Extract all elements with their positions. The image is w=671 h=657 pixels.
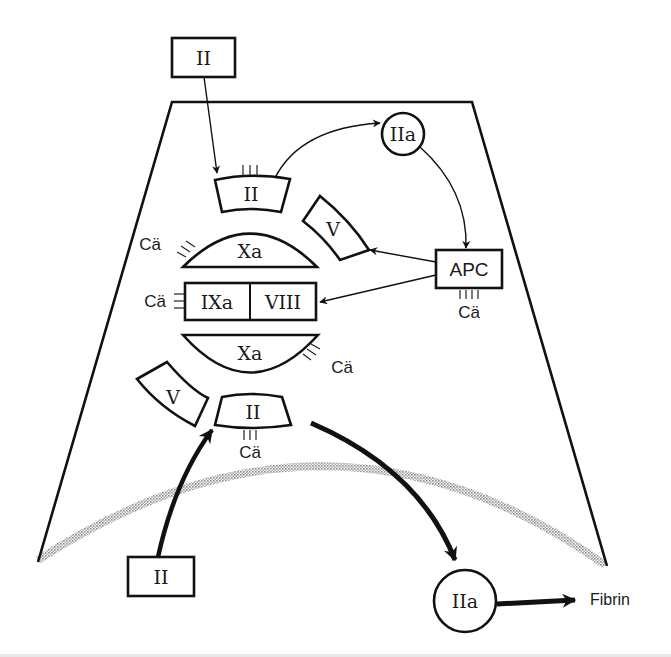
svg-text:II: II — [243, 183, 258, 205]
svg-text:II: II — [196, 47, 211, 69]
factor-xa-upper: Xa Cä — [139, 234, 317, 268]
prothrombin-box-bottom: II — [128, 557, 194, 596]
arrow-thrombin-to-fibrin — [497, 600, 575, 604]
tenase-complex: IXa VIII Cä — [144, 283, 316, 320]
apc-box: APC Cä — [436, 250, 502, 322]
calcium-label-ii-bottom: Cä — [239, 443, 261, 462]
calcium-label-xa-upper: Cä — [139, 235, 161, 254]
arrow-apc-to-v — [370, 250, 436, 262]
svg-text:IIa: IIa — [390, 123, 416, 145]
arrow-bound-ii-to-iia — [275, 123, 380, 178]
membrane-curve — [38, 466, 605, 565]
factor-v-upper: V — [303, 196, 369, 260]
bound-prothrombin-bottom: II Cä — [215, 394, 291, 462]
arrow-iia-to-apc — [420, 147, 466, 248]
svg-text:II: II — [245, 401, 260, 423]
calcium-label-xa-lower: Cä — [331, 358, 353, 377]
prothrombin-box-top: II — [172, 38, 235, 77]
arrow-apc-to-viii — [320, 275, 436, 302]
svg-text:Xa: Xa — [238, 342, 263, 364]
cell-outline — [38, 102, 607, 566]
thrombin-circle-top: IIa — [382, 113, 424, 155]
svg-text:Xa: Xa — [238, 240, 263, 262]
fibrin-label: Fibrin — [590, 591, 630, 608]
thrombin-circle-bottom: IIa — [434, 570, 496, 632]
arrow-bound-to-thrombin-bottom — [311, 423, 455, 560]
calcium-label-apc: Cä — [458, 303, 480, 322]
factor-xa-lower: Xa Cä — [183, 335, 353, 377]
svg-text:APC: APC — [449, 259, 488, 280]
arrow-ii-to-bound-ii — [204, 77, 217, 173]
calcium-label-ixa: Cä — [144, 292, 166, 311]
svg-text:V: V — [165, 386, 180, 408]
svg-text:IIa: IIa — [452, 590, 478, 612]
coagulation-diagram: II II IIa APC Cä V Xa — [0, 0, 671, 657]
svg-text:V: V — [325, 218, 340, 240]
factor-v-lower: V — [137, 362, 208, 426]
factor-viii-label: VIII — [264, 291, 301, 313]
svg-text:II: II — [153, 566, 168, 588]
factor-ixa-label: IXa — [201, 291, 233, 313]
